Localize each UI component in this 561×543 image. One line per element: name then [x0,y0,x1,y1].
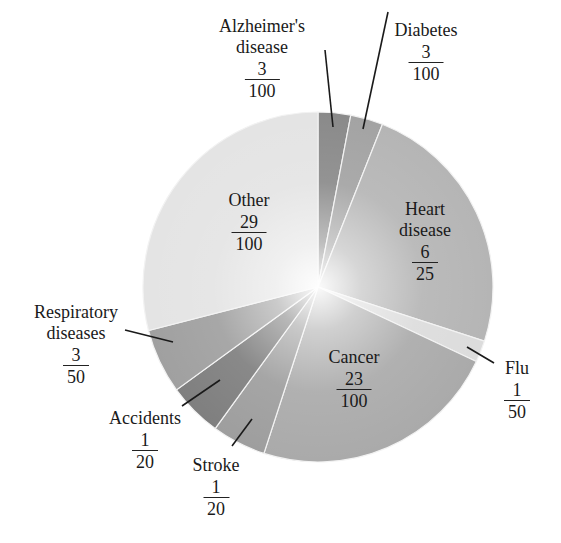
fraction-other: 29 100 [231,212,266,255]
denominator: 20 [132,450,158,473]
label-accidents: Accidents 1 20 [109,408,181,473]
numerator: 3 [254,59,271,79]
label-other: Other 29 100 [229,190,270,255]
fraction-heart: 6 25 [412,242,438,285]
numerator: 3 [67,345,84,365]
numerator: 1 [208,477,225,497]
label-alzheimers: Alzheimer's disease 3 100 [219,16,305,102]
label-respiratory-diseases: Respiratory diseases 3 50 [34,302,118,388]
denominator: 20 [203,497,229,520]
fraction-alzheimers: 3 100 [245,59,280,102]
label-heart-line2: disease [399,220,451,241]
label-diabetes: Diabetes 3 100 [395,20,458,85]
label-other-line1: Other [229,190,270,211]
label-diabetes-line1: Diabetes [395,20,458,41]
label-cancer-line1: Cancer [329,347,380,368]
label-stroke-line1: Stroke [193,455,240,476]
denominator: 25 [412,262,438,285]
label-flu: Flu 1 50 [504,358,530,423]
denominator: 50 [63,365,89,388]
denominator: 100 [231,232,266,255]
numerator: 1 [136,430,153,450]
denominator: 100 [337,389,372,412]
numerator: 3 [417,42,434,62]
numerator: 23 [341,369,367,389]
fraction-accidents: 1 20 [132,430,158,473]
fraction-stroke: 1 20 [203,477,229,520]
label-heart-line1: Heart [399,199,451,220]
fraction-cancer: 23 100 [337,369,372,412]
fraction-respiratory: 3 50 [63,345,89,388]
fraction-flu: 1 50 [504,380,530,423]
denominator: 100 [245,79,280,102]
leader-line-diabetes [363,12,388,129]
numerator: 29 [236,212,262,232]
label-flu-line1: Flu [504,358,530,379]
label-alzheimers-line1: Alzheimer's [219,16,305,37]
center-highlight [143,112,493,462]
label-respiratory-line2: diseases [34,323,118,344]
label-alzheimers-line2: disease [219,37,305,58]
denominator: 50 [504,400,530,423]
label-accidents-line1: Accidents [109,408,181,429]
label-cancer: Cancer 23 100 [329,347,380,412]
numerator: 6 [416,242,433,262]
fraction-diabetes: 3 100 [408,42,443,85]
label-respiratory-line1: Respiratory [34,302,118,323]
label-stroke: Stroke 1 20 [193,455,240,520]
label-heart-disease: Heart disease 6 25 [399,199,451,285]
denominator: 100 [408,62,443,85]
numerator: 1 [509,380,526,400]
